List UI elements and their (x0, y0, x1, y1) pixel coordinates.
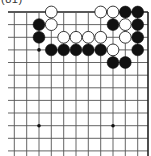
black-stone-icon (82, 44, 94, 56)
star-point-icon (111, 124, 115, 128)
black-stone-icon (33, 31, 45, 43)
white-stone-icon (45, 19, 57, 31)
black-stone-icon (70, 44, 82, 56)
black-stone-icon (95, 44, 107, 56)
white-stone-icon (95, 6, 107, 18)
black-stone-icon (132, 19, 144, 31)
white-stone-icon (119, 31, 131, 43)
white-stone-icon (45, 6, 57, 18)
go-board (0, 0, 151, 156)
white-stone-icon (119, 19, 131, 31)
black-stone-icon (132, 44, 144, 56)
black-stone-icon (132, 6, 144, 18)
white-stone-icon (107, 44, 119, 56)
white-stone-icon (107, 6, 119, 18)
white-stone-icon (82, 31, 94, 43)
black-stone-icon (107, 57, 119, 69)
black-stone-icon (119, 57, 131, 69)
white-stone-icon (58, 31, 70, 43)
star-point-icon (37, 48, 41, 52)
white-stone-icon (70, 31, 82, 43)
black-stone-icon (58, 44, 70, 56)
black-stone-icon (45, 44, 57, 56)
black-stone-icon (119, 6, 131, 18)
black-stone-icon (107, 19, 119, 31)
black-stone-icon (132, 31, 144, 43)
white-stone-icon (95, 31, 107, 43)
star-point-icon (37, 124, 41, 128)
black-stone-icon (33, 19, 45, 31)
